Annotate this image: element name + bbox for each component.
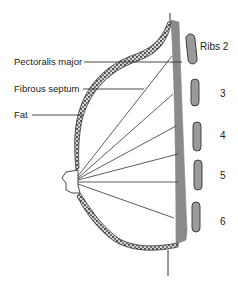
pectoralis-major-muscle (171, 20, 187, 244)
label-fat: Fat (14, 110, 28, 120)
label-rib-4: 4 (220, 131, 226, 141)
label-rib-6: 6 (220, 217, 226, 227)
rib-5 (194, 160, 202, 190)
label-pectoralis-major: Pectoralis major (14, 57, 82, 67)
rib-6 (192, 202, 200, 232)
rib-3 (191, 79, 199, 106)
fat-layer-upper (75, 22, 171, 170)
rib-2 (185, 34, 197, 65)
ribs (185, 34, 202, 232)
label-fibrous-septum: Fibrous septum (14, 84, 79, 94)
label-rib-3: 3 (220, 89, 226, 99)
label-rib-5: 5 (220, 171, 226, 181)
nipple (62, 170, 80, 193)
rib-4 (193, 122, 201, 151)
fibrous-septa (78, 56, 178, 218)
label-rib-2: Ribs 2 (200, 42, 228, 52)
